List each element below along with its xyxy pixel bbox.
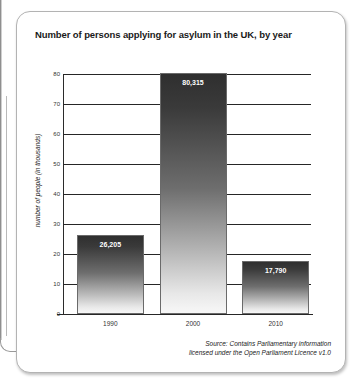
- page-edge-artifact-inner: [6, 96, 8, 336]
- plot-area: 01020304050607080 26,20580,31517,790 199…: [63, 74, 311, 314]
- source-line-2: licensed under the Open Parliament Licen…: [189, 348, 331, 358]
- chart-title: Number of persons applying for asylum in…: [35, 29, 292, 40]
- y-axis-tick-label: 30: [53, 221, 60, 227]
- x-axis-tick-label: 2010: [242, 320, 309, 327]
- bar-value-label: 17,790: [243, 267, 308, 274]
- source-note: Source: Contains Parliamentary informati…: [189, 339, 331, 359]
- y-axis-title: number of people (in thousands): [34, 121, 41, 241]
- bar: 26,205: [77, 235, 144, 314]
- y-axis-tick-label: 70: [53, 101, 60, 107]
- bar: 80,315: [160, 73, 227, 314]
- bar: 17,790: [242, 261, 309, 314]
- y-axis-tick-label: 80: [53, 71, 60, 77]
- y-axis-tick-label: 10: [53, 281, 60, 287]
- x-axis-tick-label: 1990: [77, 320, 144, 327]
- source-line-1: Source: Contains Parliamentary informati…: [189, 339, 331, 349]
- y-axis-tick-label: 50: [53, 161, 60, 167]
- bar-value-label: 80,315: [161, 79, 226, 86]
- chart-card: Number of persons applying for asylum in…: [16, 11, 346, 373]
- y-axis-tick-label: 20: [53, 251, 60, 257]
- y-axis-tick-label: 40: [53, 191, 60, 197]
- x-axis-tick-label: 2000: [160, 320, 227, 327]
- bar-value-label: 26,205: [78, 241, 143, 248]
- x-axis-line: [57, 314, 313, 315]
- y-axis-tick-label: 60: [53, 131, 60, 137]
